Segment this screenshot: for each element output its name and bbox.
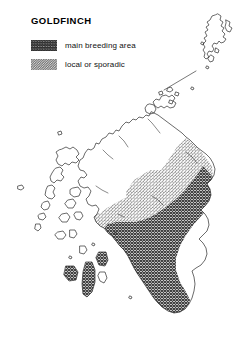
legend-label-local-or-sporadic: local or sporadic <box>65 59 125 70</box>
islet-b <box>92 243 95 246</box>
distribution-shading <box>64 138 215 314</box>
orkney-outline <box>145 87 179 114</box>
distribution-map-figure: GOLDFINCH main breeding area <box>0 0 241 352</box>
main-breeding-area-swatch <box>31 40 57 51</box>
legend-item-local-or-sporadic: local or sporadic <box>31 58 181 70</box>
local-or-sporadic-swatch <box>31 59 57 70</box>
shetland-outline <box>203 14 232 62</box>
map-legend: GOLDFINCH main breeding area <box>31 15 181 77</box>
legend-item-main-breeding-area: main breeding area <box>31 39 181 51</box>
st-kilda-islet <box>18 185 24 190</box>
legend-label-main-breeding-area: main breeding area <box>65 40 136 51</box>
outer-hebrides-outline <box>35 147 79 231</box>
islet-c <box>69 256 72 259</box>
map-title: GOLDFINCH <box>31 15 181 26</box>
inner-hebrides-outline <box>55 187 108 297</box>
foula-islet <box>201 42 204 45</box>
north-rona-islet <box>58 131 62 135</box>
islet-d <box>129 296 132 299</box>
fair-isle-islet <box>206 66 209 69</box>
north-ronaldsay-islet <box>191 87 194 90</box>
